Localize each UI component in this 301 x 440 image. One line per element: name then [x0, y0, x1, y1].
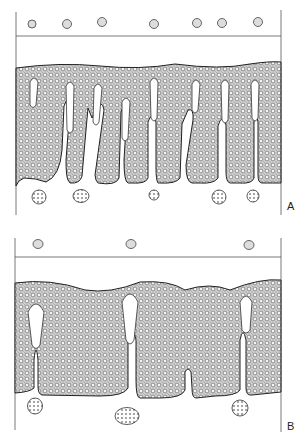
vessels-a: [32, 190, 259, 205]
epithelium-b: [15, 280, 281, 398]
panel-b-drawing: [0, 220, 301, 440]
panel-b: B: [0, 220, 301, 440]
panel-a-drawing: [0, 0, 301, 220]
panel-label-b: B: [287, 420, 294, 432]
surface-cells-b: [33, 240, 254, 250]
epithelium-a: [16, 62, 281, 186]
panel-label-a: A: [287, 200, 294, 212]
surface-cells-a: [28, 18, 263, 29]
vessels-b: [28, 398, 249, 425]
panel-a: A: [0, 0, 301, 220]
